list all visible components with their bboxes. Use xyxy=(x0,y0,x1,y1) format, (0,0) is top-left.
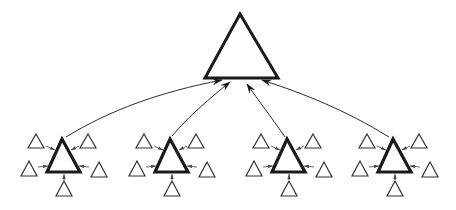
satellite-triangle-mid-left xyxy=(246,161,262,176)
satellite-triangle-mid-right xyxy=(422,162,438,177)
cluster-3 xyxy=(246,134,332,196)
satellite-triangle-top-right xyxy=(411,134,427,148)
satellite-triangle-bottom xyxy=(164,181,180,196)
spoke-arrow xyxy=(154,146,163,150)
spoke-arrow xyxy=(263,166,273,167)
spoke-arrow xyxy=(79,166,89,167)
satellite-triangle-top-left xyxy=(28,134,44,148)
satellite-triangle-mid-left xyxy=(21,161,37,176)
satellite-triangle-top-right xyxy=(80,134,96,148)
satellite-triangle-top-right xyxy=(188,134,204,148)
spoke-arrow xyxy=(402,146,410,150)
satellite-triangle-mid-right xyxy=(199,162,215,177)
satellite-triangle-bottom xyxy=(56,181,72,196)
hub-triangle xyxy=(155,139,188,172)
satellite-triangle-top-left xyxy=(136,134,152,148)
cluster-2 xyxy=(129,134,215,196)
cluster-4 xyxy=(352,134,438,196)
hub-triangle xyxy=(47,139,80,172)
hub-to-root-arrows xyxy=(66,80,389,137)
root-triangle xyxy=(205,14,278,78)
spoke-arrow xyxy=(304,166,314,167)
diagram-canvas xyxy=(0,0,456,210)
satellite-triangle-mid-left xyxy=(129,161,145,176)
spoke-arrow xyxy=(296,146,304,150)
satellite-triangle-mid-left xyxy=(352,161,368,176)
triangle-hierarchy-diagram xyxy=(0,0,456,210)
arrow-cluster-4-to-root xyxy=(262,80,389,137)
spoke-arrow xyxy=(179,146,187,150)
hub-triangle xyxy=(378,139,411,172)
arrow-cluster-2-to-root xyxy=(172,82,230,136)
spoke-arrow xyxy=(46,146,55,150)
hub-triangle xyxy=(272,139,305,172)
satellite-triangle-top-right xyxy=(305,134,321,148)
satellite-triangle-top-left xyxy=(253,134,269,148)
spoke-arrow xyxy=(410,166,420,167)
cluster-1 xyxy=(21,134,107,196)
spoke-arrow xyxy=(271,146,280,150)
satellite-triangle-mid-right xyxy=(91,162,107,177)
spoke-arrow xyxy=(187,166,197,167)
satellite-triangle-mid-right xyxy=(316,162,332,177)
arrow-cluster-3-to-root xyxy=(247,84,285,137)
spoke-arrow xyxy=(369,166,379,167)
satellite-triangle-top-left xyxy=(359,134,375,148)
spoke-arrow xyxy=(377,146,386,150)
satellite-triangle-bottom xyxy=(387,181,403,196)
spoke-arrow xyxy=(71,146,79,150)
spoke-arrow xyxy=(146,166,156,167)
spoke-arrow xyxy=(38,166,48,167)
satellite-triangle-bottom xyxy=(281,181,297,196)
